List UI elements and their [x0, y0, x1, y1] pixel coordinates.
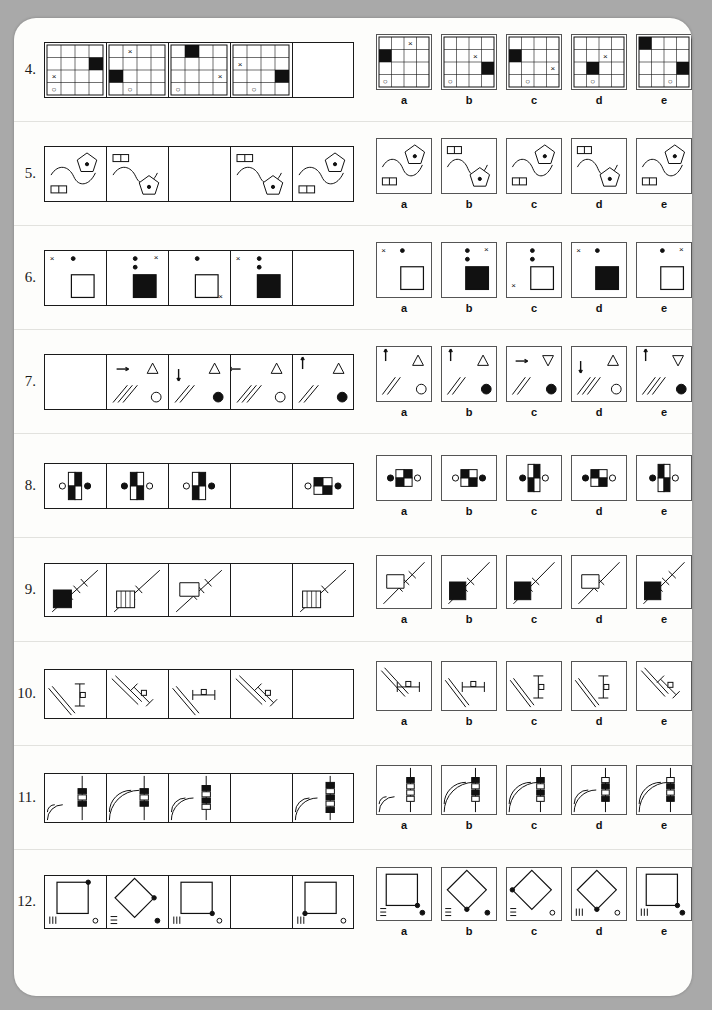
option-e[interactable]: e	[636, 555, 692, 625]
option-figure[interactable]: ×	[441, 242, 497, 298]
option-figure[interactable]: ×	[506, 242, 562, 298]
option-figure[interactable]	[506, 867, 562, 921]
option-label: d	[596, 94, 603, 106]
option-figure[interactable]	[376, 138, 432, 194]
option-e[interactable]: ○e	[636, 34, 692, 106]
option-figure[interactable]: ×	[636, 242, 692, 298]
option-label: c	[531, 819, 537, 831]
option-figure[interactable]	[571, 555, 627, 609]
svg-text:×: ×	[236, 253, 241, 262]
option-figure[interactable]	[506, 765, 562, 815]
option-c[interactable]: c	[506, 555, 562, 625]
option-figure[interactable]: ×○	[506, 34, 562, 90]
option-b[interactable]: b	[441, 138, 497, 210]
option-figure[interactable]	[506, 555, 562, 609]
option-d[interactable]: d	[571, 346, 627, 418]
option-a[interactable]: a	[376, 867, 432, 937]
option-figure[interactable]	[441, 661, 497, 711]
option-c[interactable]: c	[506, 661, 562, 727]
option-b[interactable]: b	[441, 765, 497, 831]
option-b[interactable]: b	[441, 346, 497, 418]
option-a[interactable]: a	[376, 138, 432, 210]
option-c[interactable]: c	[506, 765, 562, 831]
option-figure[interactable]: ×○	[441, 34, 497, 90]
option-a[interactable]: a	[376, 765, 432, 831]
option-figure[interactable]	[636, 455, 692, 501]
option-b[interactable]: ×b	[441, 242, 497, 314]
option-b[interactable]: ×○b	[441, 34, 497, 106]
option-figure[interactable]	[376, 765, 432, 815]
option-d[interactable]: ×○d	[571, 34, 627, 106]
option-figure[interactable]	[636, 867, 692, 921]
option-c[interactable]: c	[506, 455, 562, 517]
option-b[interactable]: b	[441, 455, 497, 517]
option-a[interactable]: ×a	[376, 242, 432, 314]
option-e[interactable]: e	[636, 346, 692, 418]
option-d[interactable]: d	[571, 138, 627, 210]
option-figure[interactable]: ×	[571, 242, 627, 298]
option-e[interactable]: e	[636, 455, 692, 517]
option-c[interactable]: ×○c	[506, 34, 562, 106]
option-b[interactable]: b	[441, 867, 497, 937]
option-b[interactable]: b	[441, 555, 497, 625]
option-d[interactable]: ×d	[571, 242, 627, 314]
svg-text:×: ×	[408, 39, 413, 48]
option-figure[interactable]	[441, 138, 497, 194]
option-figure[interactable]	[376, 555, 432, 609]
option-d[interactable]: d	[571, 661, 627, 727]
option-figure[interactable]	[376, 661, 432, 711]
option-figure[interactable]	[571, 138, 627, 194]
option-e[interactable]: e	[636, 661, 692, 727]
option-figure[interactable]	[636, 765, 692, 815]
option-c[interactable]: c	[506, 138, 562, 210]
option-figure[interactable]	[636, 555, 692, 609]
option-e[interactable]: e	[636, 765, 692, 831]
option-figure[interactable]	[636, 138, 692, 194]
option-figure[interactable]	[441, 455, 497, 501]
option-figure[interactable]	[376, 455, 432, 501]
option-figure[interactable]	[636, 346, 692, 402]
option-figure[interactable]	[376, 867, 432, 921]
option-figure[interactable]	[441, 346, 497, 402]
sequence-cell	[106, 563, 168, 617]
option-label: b	[466, 925, 473, 937]
option-figure[interactable]	[571, 765, 627, 815]
option-c[interactable]: c	[506, 346, 562, 418]
option-figure[interactable]	[571, 346, 627, 402]
option-a[interactable]: ×○a	[376, 34, 432, 106]
sequence-strip	[44, 669, 354, 719]
option-a[interactable]: a	[376, 555, 432, 625]
option-figure[interactable]	[441, 867, 497, 921]
option-c[interactable]: ×c	[506, 242, 562, 314]
blank-cell	[230, 563, 292, 617]
option-figure[interactable]	[441, 765, 497, 815]
option-e[interactable]: ×e	[636, 242, 692, 314]
option-figure[interactable]	[636, 661, 692, 711]
option-e[interactable]: e	[636, 867, 692, 937]
option-figure[interactable]	[571, 661, 627, 711]
option-figure[interactable]	[506, 138, 562, 194]
option-d[interactable]: d	[571, 765, 627, 831]
option-figure[interactable]	[506, 346, 562, 402]
option-b[interactable]: b	[441, 661, 497, 727]
option-a[interactable]: a	[376, 346, 432, 418]
option-figure[interactable]	[506, 455, 562, 501]
option-d[interactable]: d	[571, 867, 627, 937]
option-figure[interactable]	[506, 661, 562, 711]
option-figure[interactable]	[571, 867, 627, 921]
option-e[interactable]: e	[636, 138, 692, 210]
option-figure[interactable]: ×○	[571, 34, 627, 90]
option-figure[interactable]: ○	[636, 34, 692, 90]
option-d[interactable]: d	[571, 555, 627, 625]
option-a[interactable]: a	[376, 661, 432, 727]
option-d[interactable]: d	[571, 455, 627, 517]
question-row: 5.abcde	[14, 122, 692, 226]
option-label: d	[596, 198, 603, 210]
option-figure[interactable]	[571, 455, 627, 501]
option-figure[interactable]: ×○	[376, 34, 432, 90]
option-figure[interactable]	[376, 346, 432, 402]
option-c[interactable]: c	[506, 867, 562, 937]
option-figure[interactable]	[441, 555, 497, 609]
option-a[interactable]: a	[376, 455, 432, 517]
option-figure[interactable]: ×	[376, 242, 432, 298]
